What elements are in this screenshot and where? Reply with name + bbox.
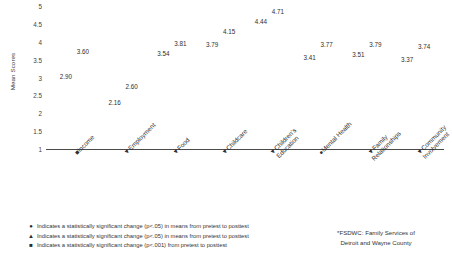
- legend-item-text: Indicates a statistically significant ch…: [37, 222, 249, 232]
- bar-value-label: 3.74: [418, 43, 430, 50]
- x-category: Food▼: [148, 150, 197, 212]
- bar-pretest: 3.54: [156, 58, 171, 149]
- x-category: Community▼Involvement: [391, 150, 440, 212]
- x-category: Childcare▼: [196, 150, 245, 212]
- y-tick: 3.5: [24, 56, 42, 63]
- bar-pretest: 2.90: [58, 81, 73, 149]
- bar-value-label: 3.37: [401, 56, 413, 63]
- significance-legend: ●Indicates a statistically significant c…: [28, 222, 308, 251]
- bar-value-label: 3.54: [157, 50, 169, 57]
- legend-marker-icon: ■: [28, 241, 34, 251]
- legend-item: ■Indicates a statistically significant c…: [28, 241, 308, 251]
- bar-value-label: 2.90: [60, 73, 72, 80]
- y-tick: 4: [24, 38, 42, 45]
- x-category: Family▼Relationships: [343, 150, 392, 212]
- y-tick: 4.5: [24, 20, 42, 27]
- bar-value-label: 4.15: [223, 28, 235, 35]
- bar-posttest: 3.81: [173, 49, 188, 149]
- y-tick: 5: [24, 3, 42, 10]
- legend-marker-icon: ●: [28, 222, 34, 232]
- bar-value-label: 2.16: [108, 99, 120, 106]
- bar-pretest: 4.44: [253, 26, 268, 149]
- bar-group: 3.794.15: [196, 6, 245, 149]
- bar-pretest: 3.79: [205, 49, 220, 149]
- x-category: Income■: [50, 150, 99, 212]
- bar-posttest: 3.74: [417, 51, 432, 149]
- footnote-line-1: *FSDWC: Family Services of: [306, 228, 446, 238]
- x-category: Employment▼: [99, 150, 148, 212]
- x-category: Mental Health●: [294, 150, 343, 212]
- bar-value-label: 3.79: [369, 41, 381, 48]
- y-axis-title: Mean Scores: [9, 42, 16, 102]
- footnote: *FSDWC: Family Services of Detroit and W…: [306, 228, 446, 247]
- legend-item-text: Indicates a statistically significant ch…: [37, 241, 227, 251]
- legend-item: ●Indicates a statistically significant c…: [28, 222, 308, 232]
- y-tick: 2.5: [24, 92, 42, 99]
- bar-posttest: 4.15: [222, 36, 237, 149]
- bar-value-label: 3.77: [320, 41, 332, 48]
- bar-group: 3.413.77: [294, 6, 343, 149]
- bar-pretest: 2.16: [107, 108, 122, 149]
- bar-value-label: 2.60: [125, 83, 137, 90]
- bar-posttest: 3.79: [368, 49, 383, 149]
- bar-group: 2.903.60: [50, 6, 99, 149]
- bar-value-label: 3.41: [303, 54, 315, 61]
- y-axis-tick-labels: 5 4.5 4 3.5 3 2.5 2 1.5 1: [24, 6, 42, 149]
- y-tick: 1: [24, 146, 42, 153]
- x-category: Children's▼Education: [245, 150, 294, 212]
- bar-group: 4.444.71: [245, 6, 294, 149]
- y-tick: 1.5: [24, 128, 42, 135]
- footnote-line-2: Detroit and Wayne County: [306, 238, 446, 248]
- mean-scores-bar-chart: Mean Scores 5 4.5 4 3.5 3 2.5 2 1.5 1 2.…: [0, 0, 452, 268]
- bar-value-label: 4.71: [272, 8, 284, 15]
- bar-value-label: 4.44: [255, 18, 267, 25]
- legend-item: ▲Indicates a statistically significant c…: [28, 232, 308, 242]
- x-axis-category-labels: Income■Employment▼Food▼Childcare▼Childre…: [46, 150, 444, 212]
- bar-value-label: 3.79: [206, 41, 218, 48]
- bar-group: 2.162.60: [99, 6, 148, 149]
- legend-item-text: Indicates a statistically significant ch…: [37, 232, 249, 242]
- bar-pretest: 3.37: [400, 64, 415, 149]
- bar-value-label: 3.60: [77, 48, 89, 55]
- y-tick: 3: [24, 74, 42, 81]
- y-tick: 2: [24, 110, 42, 117]
- bar-value-label: 3.51: [352, 51, 364, 58]
- bar-group: 3.373.74: [391, 6, 440, 149]
- bar-pretest: 3.41: [302, 63, 317, 149]
- legend-marker-icon: ▲: [28, 232, 34, 242]
- bar-pretest: 3.51: [351, 59, 366, 149]
- bar-value-label: 3.81: [174, 40, 186, 47]
- bar-posttest: 4.71: [270, 16, 285, 149]
